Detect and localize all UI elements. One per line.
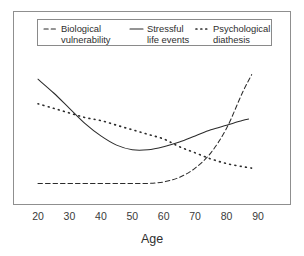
x-tick-label-20: 20 xyxy=(32,210,44,222)
age-risk-factors-line-chart: 2030405060708090 Age Biologicalvulnerabi… xyxy=(0,0,304,256)
x-tick-label-30: 30 xyxy=(64,210,76,222)
x-tick-label-60: 60 xyxy=(158,210,170,222)
legend-label-biological-line1: Biological xyxy=(61,23,101,34)
x-axis-title: Age xyxy=(141,232,163,246)
chart-legend: BiologicalvulnerabilityStressfullife eve… xyxy=(38,20,272,46)
chart-figure: 2030405060708090 Age Biologicalvulnerabi… xyxy=(0,0,304,256)
x-tick-label-50: 50 xyxy=(126,210,138,222)
series-line-stressful-life-events xyxy=(38,79,249,150)
legend-label-stressful-line2: life events xyxy=(147,34,190,45)
x-tick-label-90: 90 xyxy=(252,210,264,222)
series-line-psychological-diathesis xyxy=(38,104,252,168)
legend-label-psychological-line1: Psychological xyxy=(213,23,270,34)
series-line-biological-vulnerability xyxy=(38,75,252,184)
legend-label-psychological-line2: diathesis xyxy=(213,34,250,45)
x-tick-label-70: 70 xyxy=(189,210,201,222)
legend-label-stressful-line1: Stressful xyxy=(147,23,183,34)
legend-label-biological-line2: vulnerability xyxy=(61,34,111,45)
x-tick-label-80: 80 xyxy=(221,210,233,222)
x-axis-tick-labels: 2030405060708090 xyxy=(32,210,264,222)
chart-curves xyxy=(38,75,252,184)
x-tick-label-40: 40 xyxy=(95,210,107,222)
